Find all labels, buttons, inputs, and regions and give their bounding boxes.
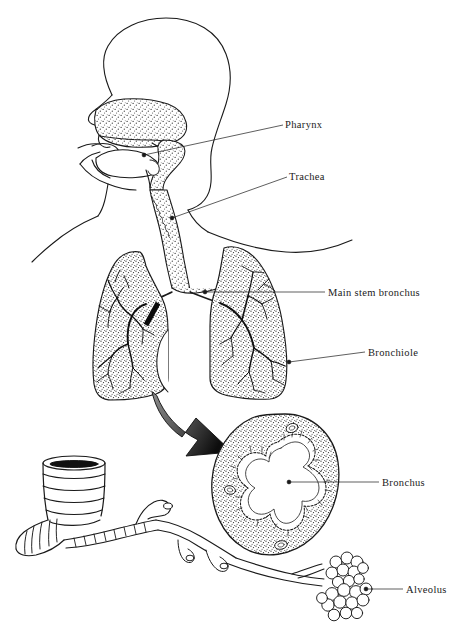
bronchus-cross-section-circle [212, 414, 339, 555]
nasal-cavity-stippled [95, 99, 187, 148]
leader-dot-pharynx [142, 153, 146, 157]
torso-shoulder-outline [32, 216, 352, 262]
leader-dot-trachea [170, 216, 174, 220]
leader-line-trachea [172, 177, 287, 218]
label-bronchiole: Bronchiole [368, 347, 418, 358]
magnification-arrow [152, 392, 232, 456]
leader-line-bronchiole [289, 352, 365, 362]
respiratory-system-figure: PharynxTracheaMain stem bronchusBronchio… [0, 0, 464, 632]
label-alveolus: Alveolus [406, 584, 447, 595]
label-trachea: Trachea [289, 171, 325, 182]
leader-dot-main-stem-bronchus [203, 290, 207, 294]
diagram-canvas: PharynxTracheaMain stem bronchusBronchio… [0, 0, 464, 632]
leader-dot-alveolus [364, 587, 368, 591]
trachea-stippled-tube [150, 190, 190, 290]
alveoli-grape-clusters [317, 552, 372, 621]
label-main-stem-bronchus: Main stem bronchus [328, 287, 420, 298]
label-bronchus: Bronchus [382, 477, 425, 488]
tracheal-cartilage-rings-inset [16, 456, 158, 556]
label-pharynx: Pharynx [285, 119, 323, 130]
leader-dot-bronchiole [287, 360, 291, 364]
leader-dot-bronchus [287, 480, 291, 484]
